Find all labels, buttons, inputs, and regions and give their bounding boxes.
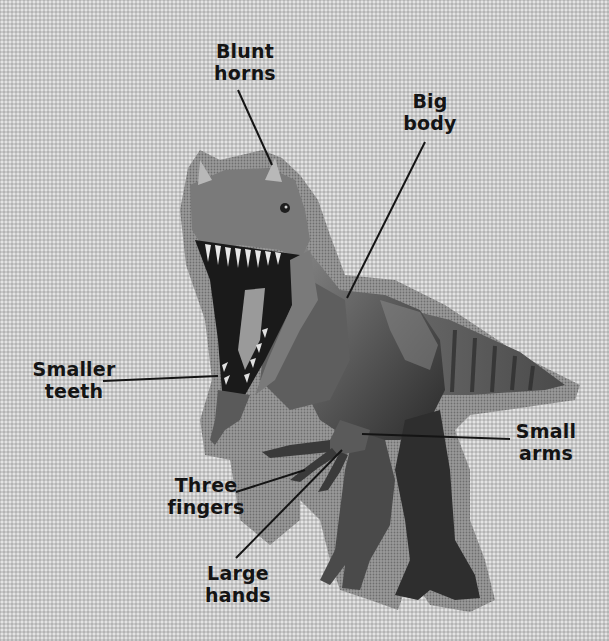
dinosaur-illustration xyxy=(0,0,609,641)
label-large-hands: Large hands xyxy=(200,562,276,606)
label-three-fingers: Three fingers xyxy=(164,474,248,518)
label-three-fingers-line1: Three xyxy=(164,474,248,496)
label-large-hands-line2: hands xyxy=(200,584,276,606)
label-smaller-teeth-line1: Smaller xyxy=(28,358,120,380)
dinosaur-diagram: Blunt horns Big body Smaller teeth Small… xyxy=(0,0,609,641)
label-big-body-line1: Big xyxy=(400,90,460,112)
label-three-fingers-line2: fingers xyxy=(164,496,248,518)
label-big-body-line2: body xyxy=(400,112,460,134)
leader-big-body xyxy=(347,142,425,298)
label-blunt-horns-line2: horns xyxy=(205,62,285,84)
label-small-arms-line1: Small xyxy=(508,420,584,442)
label-smaller-teeth: Smaller teeth xyxy=(28,358,120,402)
label-big-body: Big body xyxy=(400,90,460,134)
label-small-arms-line2: arms xyxy=(508,442,584,464)
label-smaller-teeth-line2: teeth xyxy=(28,380,120,402)
label-small-arms: Small arms xyxy=(508,420,584,464)
leader-smaller-teeth xyxy=(103,376,218,381)
label-large-hands-line1: Large xyxy=(200,562,276,584)
label-blunt-horns-line1: Blunt xyxy=(205,40,285,62)
label-blunt-horns: Blunt horns xyxy=(205,40,285,84)
